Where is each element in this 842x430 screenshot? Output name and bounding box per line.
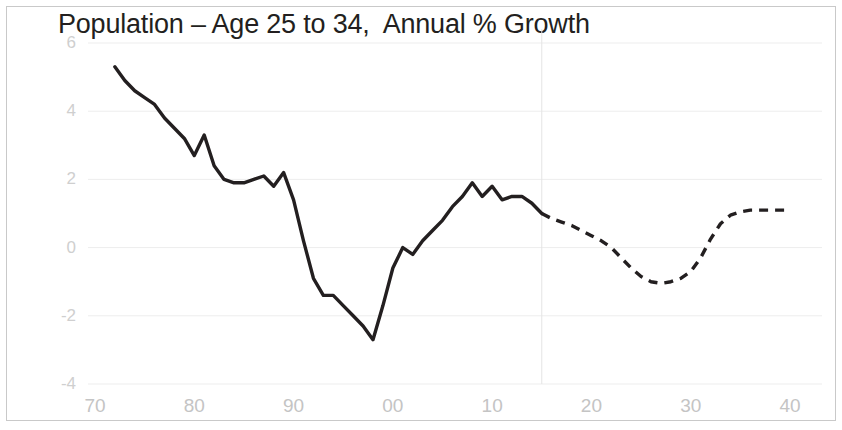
y-tick-label: -2	[42, 306, 76, 326]
chart-plot-area	[0, 0, 842, 430]
x-tick-label: 10	[462, 395, 522, 417]
y-tick-label: 4	[42, 101, 76, 121]
x-tick-label: 90	[264, 395, 324, 417]
x-tick-label: 20	[561, 395, 621, 417]
y-tick-label: -4	[42, 374, 76, 394]
y-axis: 6420-2-4	[20, 0, 76, 430]
population-growth-chart: Population – Age 25 to 34, Annual % Grow…	[0, 0, 842, 430]
gridlines	[88, 43, 822, 384]
y-tick-label: 2	[42, 169, 76, 189]
x-tick-label: 30	[661, 395, 721, 417]
x-tick-label: 40	[760, 395, 820, 417]
x-tick-label: 00	[363, 395, 423, 417]
y-tick-label: 6	[42, 33, 76, 53]
forecast-series-line	[542, 210, 790, 283]
y-tick-label: 0	[42, 238, 76, 258]
x-tick-label: 80	[164, 395, 224, 417]
x-tick-label: 70	[65, 395, 125, 417]
historical-series-line	[115, 67, 542, 340]
